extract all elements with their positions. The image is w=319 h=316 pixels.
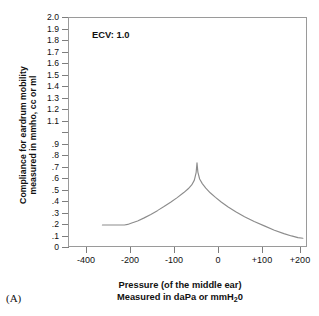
- tympanogram-curve: [69, 18, 308, 248]
- y-tick-label: 1.3: [33, 93, 59, 103]
- y-tick-label: .5: [33, 185, 59, 195]
- y-tick-label: 1.1: [33, 116, 59, 126]
- y-tick-label: 1.7: [33, 47, 59, 57]
- y-tick-label: .8: [33, 150, 59, 160]
- y-tick-label: 1.8: [33, 35, 59, 45]
- y-tick-label: 1.9: [33, 24, 59, 34]
- y-tick-label: .4: [33, 196, 59, 206]
- y-tick-mark: [62, 247, 69, 248]
- x-tick-label: -400: [64, 255, 108, 265]
- y-tick-label: 1.4: [33, 81, 59, 91]
- x-tick-label: -200: [108, 255, 152, 265]
- x-axis-title-line-2-tail: 0: [238, 292, 243, 302]
- x-axis-title: Pressure (of the middle ear) Measured in…: [60, 279, 300, 304]
- x-axis-title-line-2: Measured in daPa or mmH20: [60, 291, 300, 303]
- tympanogram-figure: Compliance for eardrum mobility measured…: [0, 0, 319, 316]
- y-tick-label: .6: [33, 173, 59, 183]
- y-tick-label: 2.0: [33, 12, 59, 22]
- y-tick-label: 1.5: [33, 70, 59, 80]
- x-axis-title-subscript: 2: [234, 295, 238, 304]
- y-tick-label: 1.6: [33, 58, 59, 68]
- y-tick-label: .9: [33, 139, 59, 149]
- x-tick-label: 0: [196, 255, 240, 265]
- y-axis-title-line-1: Compliance for eardrum mobility: [18, 66, 28, 204]
- x-axis-title-line-1: Pressure (of the middle ear): [60, 279, 300, 291]
- y-tick-label: 1.2: [33, 104, 59, 114]
- panel-label: (A): [6, 292, 21, 304]
- y-tick-label: .3: [33, 208, 59, 218]
- y-tick-label: 0: [33, 242, 59, 252]
- tympanogram-curve-line: [102, 163, 303, 238]
- y-tick-label: .1: [33, 231, 59, 241]
- y-tick-label: .2: [33, 219, 59, 229]
- x-axis-title-line-2-main: Measured in daPa or mmH: [117, 292, 234, 302]
- x-tick-label: +200: [278, 255, 319, 265]
- x-tick-label: -100: [152, 255, 196, 265]
- plot-area: ECV: 1.0: [68, 17, 307, 247]
- y-tick-label: .7: [33, 162, 59, 172]
